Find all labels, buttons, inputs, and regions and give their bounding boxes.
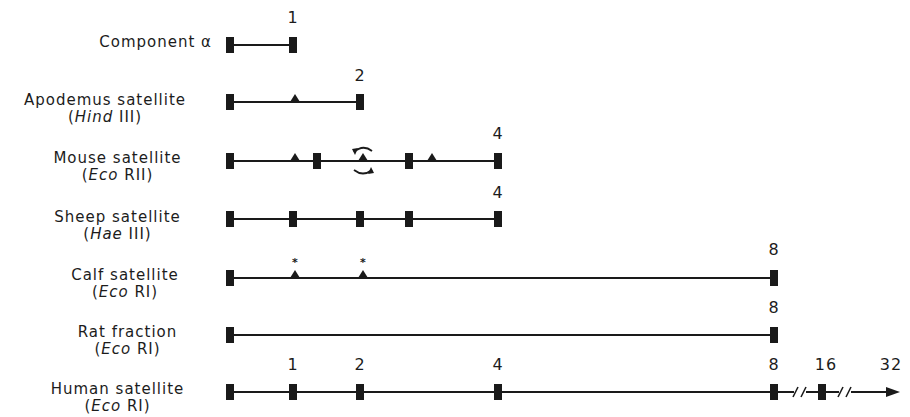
- restriction-site-block: [289, 211, 297, 227]
- restriction-site-block: [494, 153, 502, 169]
- restriction-site-block: [494, 211, 502, 227]
- restriction-site-block: [770, 384, 778, 400]
- restriction-site-block: [356, 211, 364, 227]
- restriction-site-block: [226, 153, 234, 169]
- restriction-map-figure: Component α Apodemus satellite (Hind III…: [0, 0, 910, 417]
- restriction-site-block: [226, 211, 234, 227]
- restriction-site-block: [770, 327, 778, 343]
- axis-break-icon: [846, 387, 851, 397]
- restriction-site-block: [494, 384, 502, 400]
- restriction-site-block: [226, 270, 234, 286]
- restriction-site-block: [405, 211, 413, 227]
- partial-site-triangle-icon: [290, 153, 300, 161]
- partial-site-triangle-icon: [290, 270, 300, 278]
- arrow-head-icon: [886, 387, 900, 397]
- partial-site-triangle-icon: [358, 270, 368, 278]
- partial-site-triangle-icon: [358, 153, 368, 161]
- asterisk-icon: *: [360, 256, 366, 269]
- rotation-arrow-icon: [368, 167, 374, 174]
- restriction-site-block: [226, 37, 234, 53]
- partial-site-triangle-icon: [427, 153, 437, 161]
- restriction-site-block: [289, 37, 297, 53]
- axis-break-icon: [801, 387, 806, 397]
- restriction-site-block: [818, 384, 826, 400]
- asterisk-icon: *: [292, 256, 298, 269]
- restriction-site-block: [770, 270, 778, 286]
- partial-site-triangle-icon: [290, 94, 300, 102]
- map-drawing: **: [0, 0, 910, 417]
- restriction-site-block: [226, 94, 234, 110]
- rotation-arrow-icon: [352, 148, 358, 155]
- restriction-site-block: [356, 384, 364, 400]
- restriction-site-block: [226, 384, 234, 400]
- restriction-site-block: [313, 153, 321, 169]
- restriction-site-block: [289, 384, 297, 400]
- restriction-site-block: [405, 153, 413, 169]
- restriction-site-block: [226, 327, 234, 343]
- restriction-site-block: [356, 94, 364, 110]
